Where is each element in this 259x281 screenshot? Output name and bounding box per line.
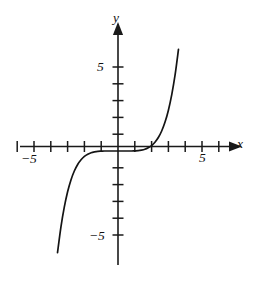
x-axis-name-label: x [237,137,243,151]
graph-figure: −5 5 5 −5 x y [0,0,259,281]
y-axis-name-label: y [113,11,119,25]
y-axis-tick-label-positive-five: 5 [97,60,104,74]
y-axis-tick-label-negative-five: −5 [89,229,104,243]
y-axis [113,22,124,265]
x-axis-tick-label-positive-five: 5 [199,151,206,165]
coordinate-plane [0,0,259,281]
x-axis-tick-label-negative-five: −5 [21,152,36,166]
